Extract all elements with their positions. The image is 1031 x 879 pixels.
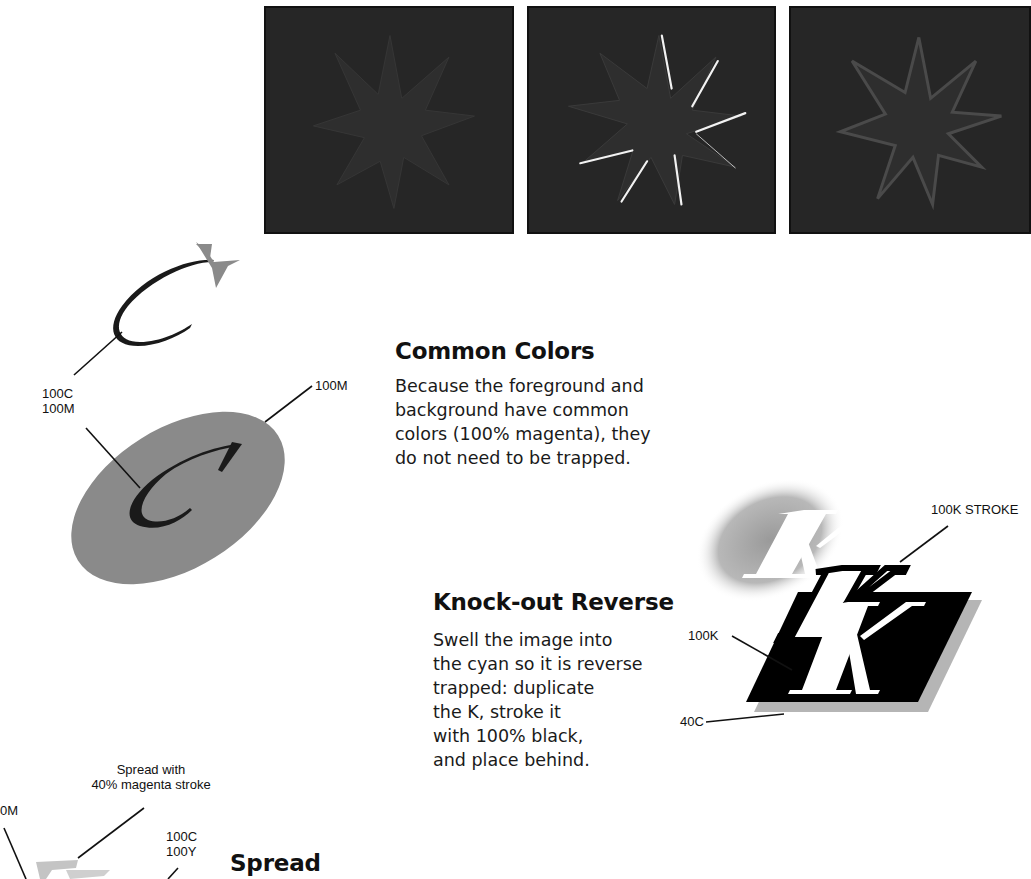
label-100k-stroke: 100K STROKE: [931, 502, 1018, 517]
c-glyph-figure: [0, 240, 360, 600]
heading-common-colors: Common Colors: [395, 338, 595, 364]
star-panel-3: [789, 6, 1031, 234]
star-panel-1: [264, 6, 514, 234]
label-100c-100m: 100C 100M: [42, 386, 75, 416]
star-icon: [791, 8, 1029, 232]
star-icon: [529, 8, 774, 232]
star-icon: [266, 8, 512, 232]
label-100m: 100M: [315, 378, 348, 393]
heading-spread: Spread: [230, 850, 321, 876]
label-edge-m: 0M: [0, 803, 18, 818]
label-100k: 100K: [688, 628, 718, 643]
heading-knockout-reverse: Knock-out Reverse: [433, 589, 674, 615]
body-common-colors: Because the foreground and background ha…: [395, 374, 651, 470]
label-40c: 40C: [680, 714, 704, 729]
label-spread-stroke: Spread with 40% magenta stroke: [76, 762, 226, 792]
body-knockout-reverse: Swell the image into the cyan so it is r…: [433, 628, 643, 772]
k-glyph-figure: [680, 490, 1031, 740]
star-panel-2: [527, 6, 776, 234]
label-100c-100y: 100C 100Y: [166, 829, 197, 859]
